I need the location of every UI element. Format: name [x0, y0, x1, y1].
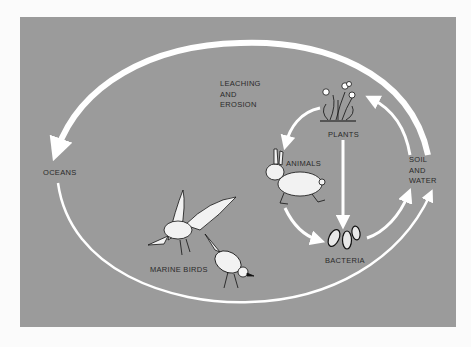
soil-label-line3: WATER — [409, 176, 437, 187]
marine-birds-label: MARINE BIRDS — [150, 265, 208, 276]
animals-label: ANIMALS — [286, 159, 321, 170]
leaching-erosion-label: LEACHING AND EROSION — [220, 79, 261, 111]
plant-icon — [320, 82, 356, 122]
bacteria-label: BACTERIA — [325, 256, 365, 267]
animals-to-bacteria-arrow — [285, 208, 318, 240]
oceans-label: OCEANS — [43, 168, 76, 179]
soil-water-label: SOIL AND WATER — [409, 155, 437, 187]
leaching-label-line3: EROSION — [220, 100, 261, 111]
plants-to-animals-arrow — [286, 108, 320, 143]
leaching-label-line2: AND — [220, 90, 261, 101]
soil-label-line2: AND — [409, 166, 437, 177]
bacteria-icon — [326, 225, 361, 249]
bacteria-to-soil-arrow — [367, 195, 408, 238]
plants-label: PLANTS — [328, 130, 359, 141]
leaching-label-line1: LEACHING — [220, 79, 261, 90]
soil-label-line1: SOIL — [409, 155, 437, 166]
rabbit-icon — [266, 149, 325, 204]
oceans-to-soil-arrow — [58, 183, 430, 302]
